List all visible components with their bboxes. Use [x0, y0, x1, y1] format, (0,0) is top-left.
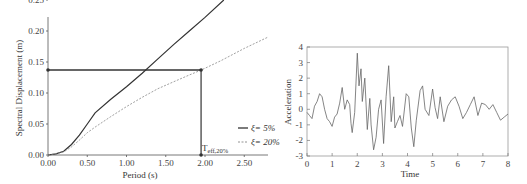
y-tick-label: 1 — [299, 89, 304, 99]
x-tick-label: 1.50 — [158, 158, 174, 168]
legend: ξ= 5% ξ= 20% — [238, 123, 280, 147]
y-tick-label: 0.05 — [28, 119, 44, 129]
y-tick-label: 0.15 — [28, 57, 44, 67]
y-tick-label: 0.20 — [28, 26, 44, 36]
x-tick-label: 5 — [430, 159, 435, 169]
right-series — [307, 53, 508, 150]
x-tick-label: 1 — [330, 159, 335, 169]
x-tick-label: 2.00 — [197, 158, 213, 168]
x-tick-label: 2 — [355, 159, 360, 169]
x-tick-label: 0.50 — [79, 158, 95, 168]
left-y-label: Spectral Displacement (m) — [14, 40, 24, 136]
legend-item-20pct: ξ= 20% — [251, 137, 280, 147]
chart-canvas: 0.000.501.001.502.002.500.000.050.100.15… — [0, 0, 527, 184]
x-tick-label: 8 — [506, 159, 511, 169]
spectral-displacement-chart: 0.000.501.001.502.002.500.000.050.100.15… — [14, 0, 280, 180]
marker-dot — [46, 68, 50, 72]
y-tick-label: 0 — [299, 104, 304, 114]
y-tick-label: 0.10 — [28, 88, 44, 98]
series-5pct-damping — [48, 0, 224, 155]
figure: 0.000.501.001.502.002.500.000.050.100.15… — [0, 0, 527, 184]
y-tick-label: -3 — [296, 151, 304, 161]
legend-item-5pct: ξ= 5% — [251, 123, 275, 133]
x-tick-label: 7 — [481, 159, 486, 169]
series-20pct-damping — [48, 37, 268, 155]
y-tick-label: -2 — [296, 135, 304, 145]
marker-dot — [199, 153, 203, 157]
left-x-label: Period (s) — [122, 170, 157, 180]
y-tick-label: 0.25 — [28, 0, 44, 5]
right-y-label: Acceleration — [283, 79, 293, 125]
x-tick-label: 1.00 — [119, 158, 135, 168]
x-tick-label: 2.50 — [236, 158, 252, 168]
x-tick-label: 6 — [456, 159, 461, 169]
teff-label: Teff,20% — [202, 143, 229, 154]
acceleration-series — [307, 53, 508, 150]
y-tick-label: 2 — [299, 73, 304, 83]
y-tick-label: 3 — [299, 58, 304, 68]
right-plot-frame — [307, 47, 508, 156]
left-series — [48, 0, 268, 155]
y-tick-label: 4 — [299, 42, 304, 52]
acceleration-time-history-chart: 012345678-3-2-101234 Time Acceleration — [283, 42, 511, 179]
right-x-label: Time — [401, 169, 420, 179]
y-tick-label: -1 — [296, 120, 304, 130]
x-tick-label: 3 — [380, 159, 385, 169]
effective-period-annotation — [46, 68, 203, 157]
x-tick-label: 4 — [405, 159, 410, 169]
right-ticks: 012345678-3-2-101234 — [296, 42, 511, 169]
marker-dot — [199, 68, 203, 72]
left-ticks: 0.000.501.001.502.002.500.000.050.100.15… — [28, 0, 252, 168]
x-tick-label: 0 — [305, 159, 310, 169]
teff-subscript: eff,20% — [208, 147, 229, 154]
y-tick-label: 0.00 — [28, 150, 44, 160]
